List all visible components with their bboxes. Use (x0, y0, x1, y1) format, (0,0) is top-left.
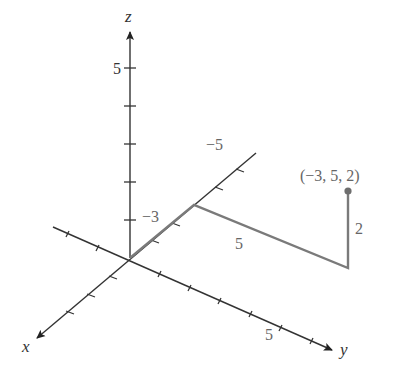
x-tick-label-neg5: −5 (206, 136, 223, 153)
z-axis (124, 32, 136, 258)
y-tick-label-5: 5 (265, 326, 273, 343)
y-axis-ticks (66, 231, 313, 344)
segment-z-length-label: 2 (355, 220, 363, 237)
z-tick-label-5: 5 (113, 60, 121, 77)
path-to-point (130, 191, 348, 268)
coordinate-diagram: z x y 5 −5 5 −3 5 2 (−3, 5, 2) (0, 0, 400, 373)
point-label: (−3, 5, 2) (300, 167, 360, 185)
point-marker (344, 187, 351, 194)
z-axis-label: z (124, 7, 132, 26)
segment-x-length-label: −3 (142, 208, 159, 225)
x-axis-label: x (21, 337, 30, 356)
y-axis-label: y (338, 340, 348, 359)
segment-y-length-label: 5 (235, 235, 243, 252)
x-axis-ticks (66, 169, 244, 314)
